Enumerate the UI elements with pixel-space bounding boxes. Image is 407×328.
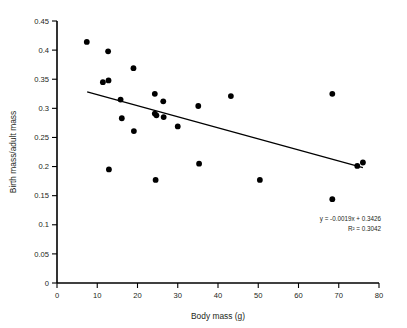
- x-tick-label: 0: [55, 291, 59, 300]
- data-point: [329, 196, 335, 202]
- y-tick-label: 0.35: [34, 75, 49, 84]
- data-point: [100, 79, 106, 85]
- data-point: [160, 98, 166, 104]
- y-tick-label: 0.45: [34, 17, 49, 26]
- data-point: [354, 163, 360, 169]
- data-point: [228, 93, 234, 99]
- data-point: [118, 97, 124, 103]
- x-tick-label: 70: [335, 291, 343, 300]
- y-tick-label: 0.2: [38, 162, 49, 171]
- data-point: [329, 91, 335, 97]
- data-point: [257, 177, 263, 183]
- x-tick-label: 40: [214, 291, 222, 300]
- x-tick-label: 60: [294, 291, 302, 300]
- x-tick-label: 20: [133, 291, 141, 300]
- regression-trend-line: [87, 92, 363, 168]
- data-point: [152, 91, 158, 97]
- data-point: [105, 48, 111, 54]
- x-tick-label: 10: [93, 291, 101, 300]
- x-tick-label: 50: [254, 291, 262, 300]
- y-tick-label: 0.4: [38, 46, 49, 55]
- x-axis-title: Body mass (g): [191, 311, 245, 321]
- data-point: [153, 177, 159, 183]
- regression-r2-label: R² = 0.3042: [348, 225, 382, 232]
- x-tick-label: 30: [174, 291, 182, 300]
- data-point: [131, 128, 137, 134]
- y-axis-ticks: 00.050.10.150.20.250.30.350.40.45: [34, 17, 57, 288]
- data-point: [360, 160, 366, 166]
- y-tick-label: 0: [45, 279, 49, 288]
- data-point: [119, 115, 125, 121]
- scatter-chart: 00.050.10.150.20.250.30.350.40.45 010203…: [0, 0, 407, 328]
- data-point: [106, 77, 112, 83]
- y-tick-label: 0.1: [38, 220, 49, 229]
- data-point: [196, 161, 202, 167]
- data-points-group: [84, 39, 366, 202]
- x-axis-ticks: 01020304050607080: [55, 283, 383, 300]
- y-tick-label: 0.05: [34, 250, 49, 259]
- data-point: [84, 39, 90, 45]
- y-tick-label: 0.3: [38, 104, 49, 113]
- axes-group: [57, 21, 379, 283]
- data-point: [161, 114, 167, 120]
- data-point: [175, 123, 181, 129]
- trend-line-group: [87, 92, 363, 168]
- data-point: [195, 103, 201, 109]
- data-point: [106, 167, 112, 173]
- y-axis-title: Birth mass/adult mass: [8, 111, 18, 193]
- y-tick-label: 0.15: [34, 191, 49, 200]
- y-tick-label: 0.25: [34, 133, 49, 142]
- regression-equation-label: y = -0.0019x + 0.3426: [320, 215, 382, 223]
- data-point: [131, 65, 137, 71]
- data-point: [154, 112, 160, 118]
- chart-canvas: 00.050.10.150.20.250.30.350.40.45 010203…: [0, 0, 407, 328]
- x-tick-label: 80: [375, 291, 383, 300]
